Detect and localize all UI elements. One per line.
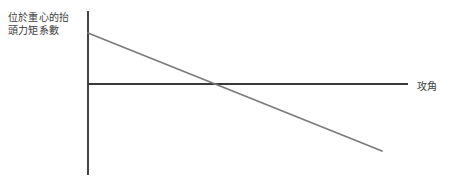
y-axis-label: 位於重心的抬 頭力矩系數	[8, 11, 78, 37]
pitching-moment-diagram: 位於重心的抬 頭力矩系數 攻角	[0, 0, 452, 180]
x-axis-label: 攻角	[417, 80, 437, 93]
